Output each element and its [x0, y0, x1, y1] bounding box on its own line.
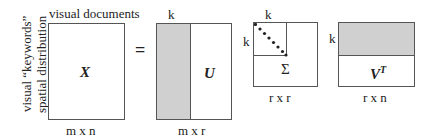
vt-symbol: VT: [370, 65, 386, 82]
x-side-label-2: spatial distribution: [35, 16, 48, 113]
vt-side-label: k: [329, 32, 336, 45]
vt-symbol-superscript: T: [380, 64, 386, 75]
sigma-diagonal-dots: [254, 23, 288, 57]
vt-shaded-region: [339, 23, 414, 56]
x-dims: m x n: [66, 124, 96, 137]
u-shaded-region: [157, 24, 191, 119]
u-top-label: k: [168, 8, 175, 21]
vt-symbol-base: V: [370, 66, 380, 82]
sigma-side-label: k: [243, 35, 250, 48]
equals-sign: =: [135, 40, 145, 61]
u-symbol: U: [204, 66, 215, 81]
u-matrix: [156, 23, 232, 120]
x-symbol: X: [80, 65, 90, 80]
sigma-symbol: Σ: [281, 61, 290, 78]
u-dims: m x r: [178, 124, 205, 137]
vt-dims: r x n: [363, 91, 387, 104]
sigma-top-label: k: [265, 8, 272, 21]
x-top-label: visual documents: [49, 7, 140, 20]
x-side-label-1: visual “keywords”: [20, 16, 33, 112]
sigma-dims: r x r: [269, 91, 291, 104]
